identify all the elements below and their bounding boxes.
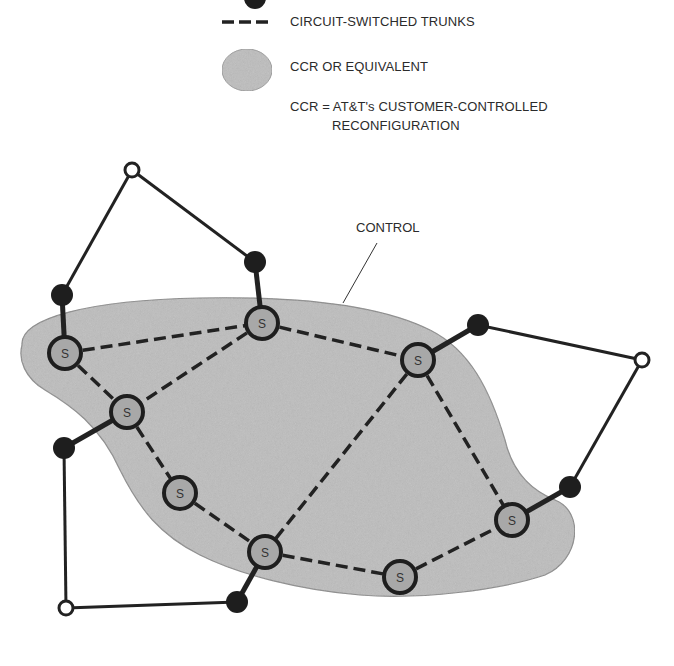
open-node-icon xyxy=(125,163,139,177)
loop-link xyxy=(62,170,132,295)
legend-trunks-label: CIRCUIT-SWITCHED TRUNKS xyxy=(290,14,475,29)
legend-definition-line2: RECONFIGURATION xyxy=(332,118,460,133)
control-leader-line xyxy=(343,243,377,303)
switch-node-label: S xyxy=(414,354,422,368)
switch-node-label: S xyxy=(123,406,131,420)
legend-ccr-label: CCR OR EQUIVALENT xyxy=(290,59,428,74)
switch-node: S xyxy=(384,561,416,593)
loop-link xyxy=(478,325,642,360)
control-label: CONTROL xyxy=(356,220,420,235)
ccr-region xyxy=(21,298,575,597)
legend-region-icon xyxy=(222,49,272,91)
switch-node: S xyxy=(111,396,143,428)
switch-node: S xyxy=(402,344,434,376)
loop-link xyxy=(64,448,66,608)
switch-node: S xyxy=(249,536,281,568)
black-node-icon xyxy=(51,284,73,306)
switch-node: S xyxy=(164,477,196,509)
switch-node-label: S xyxy=(508,514,516,528)
switch-node: S xyxy=(246,307,278,339)
switch-node-label: S xyxy=(396,571,404,585)
black-node-icon xyxy=(559,476,581,498)
black-node-icon xyxy=(244,251,266,273)
loop-link xyxy=(132,170,255,262)
legend-black-node-icon xyxy=(244,0,266,9)
black-node-icon xyxy=(467,314,489,336)
loop-link xyxy=(66,602,237,608)
switch-node: S xyxy=(496,504,528,536)
legend-definition-line1: CCR = AT&T's CUSTOMER-CONTROLLED xyxy=(290,99,548,114)
switch-node: S xyxy=(49,337,81,369)
open-node-icon xyxy=(59,601,73,615)
switch-node-label: S xyxy=(258,317,266,331)
switch-node-label: S xyxy=(61,347,69,361)
legend xyxy=(222,0,273,91)
switch-node-label: S xyxy=(261,546,269,560)
switch-node-label: S xyxy=(176,487,184,501)
loop-link xyxy=(570,360,642,487)
black-node-icon xyxy=(53,437,75,459)
black-node-icon xyxy=(226,591,248,613)
open-node-icon xyxy=(635,353,649,367)
